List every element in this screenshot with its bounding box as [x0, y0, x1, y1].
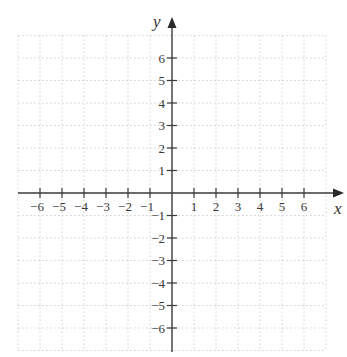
y-tick-label: 4 — [159, 96, 166, 111]
y-tick-label: −4 — [151, 276, 165, 291]
coordinate-plane: −6−5−4−3−2−1123456654321−1−2−3−4−5−6 x y — [0, 0, 347, 357]
x-tick-label: −4 — [74, 199, 88, 214]
y-tick-label: −3 — [151, 253, 165, 268]
y-tick-label: −2 — [151, 231, 165, 246]
y-tick-label: 1 — [159, 163, 166, 178]
x-axis-label: x — [333, 199, 342, 218]
y-tick-label: −6 — [151, 321, 165, 336]
y-tick-label: −1 — [151, 208, 165, 223]
y-tick-label: 3 — [159, 118, 166, 133]
x-tick-label: 4 — [257, 199, 264, 214]
x-tick-label: 1 — [191, 199, 198, 214]
x-tick-label: −3 — [96, 199, 110, 214]
y-tick-label: 2 — [159, 141, 166, 156]
x-tick-label: 2 — [213, 199, 220, 214]
x-tick-label: −5 — [52, 199, 66, 214]
y-axis-arrow-icon — [168, 17, 177, 28]
x-axis-arrow-icon — [333, 189, 344, 198]
x-tick-label: 5 — [279, 199, 286, 214]
x-tick-label: 6 — [301, 199, 308, 214]
x-tick-label: −6 — [30, 199, 44, 214]
y-tick-label: 6 — [159, 51, 166, 66]
axes — [18, 17, 344, 352]
y-tick-label: −5 — [151, 298, 165, 313]
y-tick-label: 5 — [159, 73, 166, 88]
x-tick-label: 3 — [235, 199, 242, 214]
x-tick-label: −2 — [118, 199, 132, 214]
y-axis-label: y — [151, 12, 161, 31]
